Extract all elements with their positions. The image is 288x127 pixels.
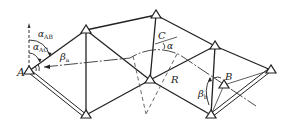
label-C: C [158,30,166,41]
station-T3-icon [151,10,161,18]
arc-arrow-icon [208,77,212,82]
baseline-A-T2 [29,71,87,117]
label-A: A [16,66,25,79]
station-A-icon [24,66,34,74]
baseline-T6-T7 [210,69,270,117]
label-beta-a: βa [59,51,70,63]
north-reference-line [28,23,31,68]
station-markers [24,10,276,118]
label-alpha-AB: αAB [38,29,53,40]
label-alpha-AC: αAC [33,42,48,53]
triangulation-diagram: A B C R α αAB αAC βa βb [0,0,288,127]
station-T4-icon [145,75,155,83]
label-R: R [170,74,179,85]
label-B: B [224,71,232,82]
diagram-svg: A B C R α αAB αAC βa βb [0,0,288,127]
label-alpha: α [167,41,173,51]
station-T6-icon [206,110,216,118]
station-T5-icon [210,41,220,49]
angle-arc-C [163,43,165,49]
arrow-to-A [44,65,50,70]
